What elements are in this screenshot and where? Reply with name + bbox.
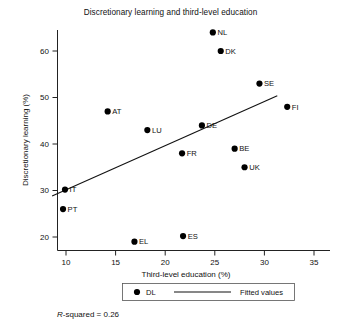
r-squared-value: -squared = 0.26: [63, 310, 119, 319]
data-point-fr: [179, 150, 185, 156]
data-point-fi: [284, 104, 290, 110]
data-point-be: [232, 146, 238, 152]
data-point-label-lu: LU: [152, 126, 162, 135]
data-point-uk: [241, 164, 247, 170]
legend-line-label: Fitted values: [240, 288, 283, 297]
scatter-plot: 20 30 40 50 60 10 15 20 25 30 35: [0, 0, 341, 328]
data-point-it: [62, 186, 68, 192]
y-axis-title: Discretionary learning (%): [21, 94, 30, 186]
x-tick-label: 30: [260, 258, 269, 267]
data-point-label-at: AT: [112, 107, 122, 116]
data-point-el: [131, 239, 137, 245]
y-tick-label: 30: [40, 186, 49, 195]
y-tick-label: 20: [40, 233, 49, 242]
y-tick-label: 40: [40, 140, 49, 149]
data-point-label-uk: UK: [249, 163, 260, 172]
data-point-label-pt: PT: [68, 205, 78, 214]
data-point-label-nl: NL: [217, 28, 227, 37]
x-tick-label: 35: [310, 258, 319, 267]
x-axis-title: Third-level education (%): [142, 270, 231, 279]
y-tick-label: 60: [40, 47, 49, 56]
data-point-label-es: ES: [188, 232, 198, 241]
data-point-label-se: SE: [264, 79, 274, 88]
data-point-label-it: IT: [70, 185, 77, 194]
x-tick-label: 25: [210, 258, 219, 267]
y-axis-ticks: 20 30 40 50 60: [40, 47, 57, 242]
legend-marker-icon: [134, 289, 140, 295]
y-tick-label: 50: [40, 93, 49, 102]
r-squared-annotation: R-squared = 0.26: [57, 310, 119, 319]
data-point-se: [256, 80, 262, 86]
data-point-label-el: EL: [139, 237, 148, 246]
x-tick-label: 10: [62, 258, 71, 267]
data-point-es: [180, 233, 186, 239]
legend-marker-label: DL: [146, 288, 156, 297]
data-point-label-be: BE: [239, 144, 249, 153]
data-point-pt: [60, 206, 66, 212]
x-tick-label: 20: [161, 258, 170, 267]
data-point-de: [199, 122, 205, 128]
data-point-label-dk: DK: [225, 47, 236, 56]
chart-figure: Discretionary learning and third-level e…: [0, 0, 341, 328]
chart-legend: DL Fitted values: [123, 284, 295, 301]
data-point-label-fr: FR: [187, 149, 198, 158]
x-tick-label: 15: [111, 258, 120, 267]
data-point-nl: [210, 29, 216, 35]
data-point-dk: [218, 48, 224, 54]
x-axis-ticks: 10 15 20 25 30 35: [62, 251, 319, 268]
data-point-at: [105, 108, 111, 114]
data-point-label-fi: FI: [292, 103, 299, 112]
data-point-lu: [144, 127, 150, 133]
data-point-label-de: DE: [207, 121, 218, 130]
data-points-group: NLDKSEFIATDELUBEFRUKITPTESEL: [60, 28, 299, 246]
